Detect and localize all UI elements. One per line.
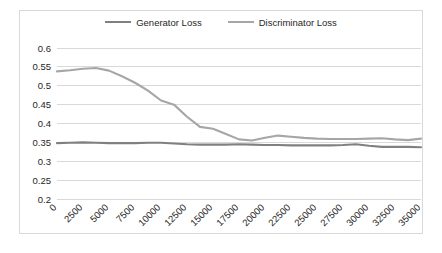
y-tick-label: 0.4 (38, 118, 51, 129)
x-tick-label: 12500 (162, 202, 188, 228)
chart-container: Generator Loss Discriminator Loss 0.20.2… (0, 0, 442, 253)
y-axis-tick-labels: 0.20.250.30.350.40.450.50.550.6 (33, 43, 52, 205)
y-tick-label: 0.5 (38, 80, 51, 91)
y-tick-label: 0.3 (38, 156, 51, 167)
x-axis-tick-labels: 0250050007500100001250015000175002000022… (47, 202, 423, 228)
x-tick-label: 32500 (370, 202, 396, 228)
series-group (57, 68, 421, 147)
y-tick-label: 0.55 (33, 61, 52, 72)
x-tick-label: 35000 (396, 202, 422, 228)
x-tick-label: 7500 (114, 202, 137, 225)
x-tick-label: 15000 (188, 202, 214, 228)
x-tick-label: 10000 (136, 202, 162, 228)
x-tick-label: 27500 (318, 202, 344, 228)
x-tick-label: 0 (47, 202, 59, 214)
x-tick-label: 5000 (88, 202, 111, 225)
x-tick-label: 22500 (266, 202, 292, 228)
chart-plot-area: 0.20.250.30.350.40.450.50.550.6 02500500… (0, 0, 442, 253)
y-tick-label: 0.25 (33, 175, 52, 186)
x-tick-label: 30000 (344, 202, 370, 228)
x-tick-label: 25000 (292, 202, 318, 228)
series-line-generator-loss[interactable] (57, 142, 421, 147)
x-tick-label: 2500 (62, 202, 85, 225)
y-tick-label: 0.6 (38, 43, 51, 54)
x-tick-label: 20000 (240, 202, 266, 228)
y-tick-label: 0.35 (33, 137, 52, 148)
y-tick-label: 0.45 (33, 99, 52, 110)
x-tick-label: 17500 (214, 202, 240, 228)
